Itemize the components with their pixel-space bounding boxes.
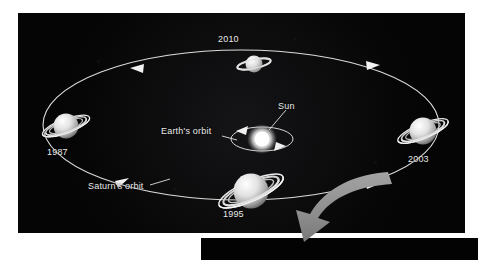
orbit-graphic xyxy=(18,13,465,233)
earth-orbit-label: Earth's orbit xyxy=(161,126,211,137)
year-label-1987: 1987 xyxy=(47,147,68,158)
earth-orbit-leader-line xyxy=(222,136,237,140)
saturn-closeup-panel xyxy=(201,238,478,260)
orbit-direction-arrows xyxy=(115,61,380,189)
saturn-orbit-diagram: 2010 1987 2003 1995 Sun Earth's orbit Sa… xyxy=(18,13,465,233)
sun-system xyxy=(231,124,293,154)
year-label-2003: 2003 xyxy=(408,154,429,165)
sun-label: Sun xyxy=(278,101,295,112)
saturn-orbit-leader-line xyxy=(150,179,170,185)
saturn-1995 xyxy=(215,168,287,215)
saturn-closeup-graphic xyxy=(201,238,478,260)
direction-arrow-upper-left xyxy=(130,64,144,73)
saturn-2010 xyxy=(236,56,276,74)
saturn-1987 xyxy=(40,111,92,141)
figure-canvas: 2010 1987 2003 1995 Sun Earth's orbit Sa… xyxy=(0,0,478,260)
saturn-orbit-label: Saturn's orbit xyxy=(88,181,144,192)
saturn-2003 xyxy=(395,114,451,148)
earth-orbit-arrow-left xyxy=(236,126,248,135)
sun-leader-line xyxy=(269,110,286,130)
sun-core xyxy=(255,132,270,147)
closeup-background xyxy=(201,238,478,260)
direction-arrow-lower-right xyxy=(365,181,379,189)
year-label-2010: 2010 xyxy=(218,34,239,45)
year-label-1995: 1995 xyxy=(223,209,244,220)
